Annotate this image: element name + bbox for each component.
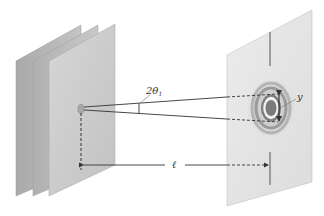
aperture: [78, 105, 84, 114]
distance-label: ℓ: [172, 159, 176, 170]
angle-leader: [140, 95, 150, 103]
diffraction-rings: [245, 76, 297, 140]
angle-label: 2θ1: [145, 85, 162, 97]
diffraction-diagram: 2θ1 y ℓ: [0, 0, 324, 216]
y-label: y: [296, 91, 303, 102]
